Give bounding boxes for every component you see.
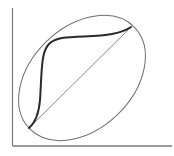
tilted-ellipse — [0, 0, 170, 156]
diagonal-line — [29, 27, 131, 128]
diagram-canvas — [0, 0, 174, 156]
diagram-figure — [0, 0, 174, 156]
